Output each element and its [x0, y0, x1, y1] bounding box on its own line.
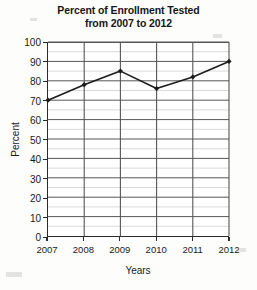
data-point-marker [118, 69, 123, 74]
x-tick-label: 2008 [73, 244, 94, 255]
plot-wrapper: 0102030405060708090100 20072008200920102… [47, 42, 229, 237]
x-tick-mark [46, 237, 47, 241]
scan-artifact [213, 34, 222, 38]
y-tick-mark [43, 198, 47, 199]
y-tick-label: 0 [35, 232, 41, 243]
x-tick-mark [83, 237, 84, 241]
y-tick-label: 30 [30, 173, 41, 184]
chart-title-line-2: from 2007 to 2012 [0, 17, 257, 30]
chart-title-line-1: Percent of Enrollment Tested [0, 4, 257, 17]
scan-artifact [6, 272, 22, 277]
chart-figure: Percent of Enrollment Tested from 2007 t… [0, 0, 257, 290]
y-tick-mark [43, 178, 47, 179]
y-tick-mark [43, 217, 47, 218]
y-tick-label: 20 [30, 193, 41, 204]
y-tick-label: 100 [24, 37, 41, 48]
y-tick-mark [43, 61, 47, 62]
series-line [48, 61, 229, 100]
data-point-marker [82, 82, 87, 87]
x-tick-label: 2009 [109, 244, 130, 255]
y-tick-label: 10 [30, 212, 41, 223]
y-tick-label: 70 [30, 95, 41, 106]
x-tick-label: 2011 [182, 244, 202, 255]
x-axis-label: Years [47, 265, 229, 276]
chart-title: Percent of Enrollment Tested from 2007 t… [0, 4, 257, 30]
x-tick-mark [156, 237, 157, 241]
data-series-line [48, 42, 229, 236]
x-tick-label: 2012 [218, 244, 239, 255]
y-tick-mark [43, 42, 47, 43]
y-tick-label: 80 [30, 76, 41, 87]
y-tick-label: 90 [30, 56, 41, 67]
y-axis-label-text: Percent [10, 122, 21, 156]
plot-area [47, 42, 229, 237]
x-tick-label: 2007 [36, 244, 57, 255]
y-tick-label: 40 [30, 154, 41, 165]
y-tick-mark [43, 100, 47, 101]
x-tick-label: 2010 [146, 244, 167, 255]
y-tick-label: 50 [30, 134, 41, 145]
y-axis-label: Percent [8, 42, 22, 237]
data-point-marker [154, 86, 159, 91]
data-point-marker [226, 59, 231, 64]
x-tick-mark [228, 237, 229, 241]
y-tick-mark [43, 139, 47, 140]
x-tick-mark [192, 237, 193, 241]
y-tick-mark [43, 159, 47, 160]
y-tick-label: 60 [30, 115, 41, 126]
y-tick-mark [43, 81, 47, 82]
data-point-marker [190, 74, 195, 79]
y-tick-mark [43, 120, 47, 121]
x-tick-mark [119, 237, 120, 241]
